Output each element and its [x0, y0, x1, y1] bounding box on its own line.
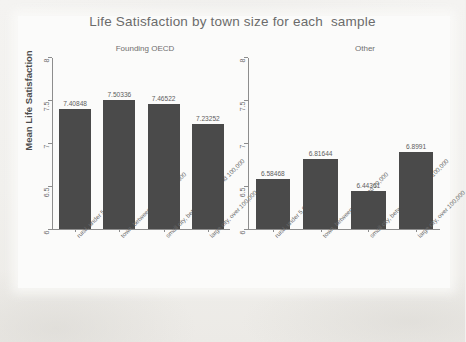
y-tick-label-left-3: 7.5 — [43, 102, 50, 118]
y-tick-label-left-0: 6 — [43, 231, 50, 247]
bar-group-left-2: 7.46522 small city, between 20,000 and 1… — [142, 58, 186, 229]
bar-group-right-1: 6.81644 town, between 5,000 and 20,000 — [297, 58, 345, 229]
panel-title-founding-oecd: Founding OECD — [60, 44, 230, 53]
bar-value-right-1: 6.81644 — [309, 150, 333, 157]
bar-value-left-1: 7.50336 — [107, 91, 131, 98]
y-tick-label-right-1: 6.5 — [239, 188, 246, 204]
bar-group-right-3: 6.8991 large city, over 100,000 — [392, 58, 440, 229]
bar-right-large-city[interactable] — [399, 152, 433, 229]
y-tick-label-right-2: 7 — [239, 145, 246, 161]
panel-other: 6 6.5 7 7.5 8 6.58468 rural, under 5,000… — [248, 58, 440, 230]
y-tick-label-right-3: 7.5 — [239, 102, 246, 118]
bar-group-left-1: 7.50336 town, between 5,000 and 20,000 — [97, 58, 141, 229]
bar-value-right-3: 6.8991 — [406, 143, 426, 150]
y-tick-label-left-4: 8 — [43, 59, 50, 75]
bar-group-right-2: 6.44361 small city, between 20,000 and 1… — [345, 58, 393, 229]
y-tick-label-left-2: 7 — [43, 145, 50, 161]
panel-title-other: Other — [300, 44, 430, 53]
bar-left-small-city[interactable] — [148, 104, 180, 229]
bar-right-town[interactable] — [303, 159, 337, 229]
y-tick-label-right-4: 8 — [239, 59, 246, 75]
bar-value-left-3: 7.23252 — [196, 115, 220, 122]
bar-group-left-3: 7.23252 large city, over 100,000 — [186, 58, 230, 229]
y-axis-label: Mean Life Satisfaction — [23, 31, 34, 171]
bar-group-right-0: 6.58468 rural, under 5,000 — [249, 58, 297, 229]
chart-title: Life Satisfaction by town size for each … — [0, 14, 465, 29]
y-tick-label-right-0: 6 — [239, 231, 246, 247]
bar-value-left-2: 7.46522 — [152, 95, 176, 102]
bar-value-right-2: 6.44361 — [356, 182, 380, 189]
plot-area-left: 7.40848 rural, under 5,000 7.50336 town,… — [53, 58, 230, 229]
panel-founding-oecd: 6 6.5 7 7.5 8 7.40848 rural, under 5,000… — [52, 58, 230, 230]
bar-value-right-0: 6.58468 — [261, 170, 285, 177]
y-tick-label-left-1: 6.5 — [43, 188, 50, 204]
bar-left-rural[interactable] — [59, 109, 91, 229]
plot-area-right: 6.58468 rural, under 5,000 6.81644 town,… — [249, 58, 440, 229]
bar-value-left-0: 7.40848 — [63, 100, 87, 107]
bar-left-town[interactable] — [103, 100, 135, 229]
bar-left-large-city[interactable] — [192, 124, 224, 229]
bar-group-left-0: 7.40848 rural, under 5,000 — [53, 58, 97, 229]
